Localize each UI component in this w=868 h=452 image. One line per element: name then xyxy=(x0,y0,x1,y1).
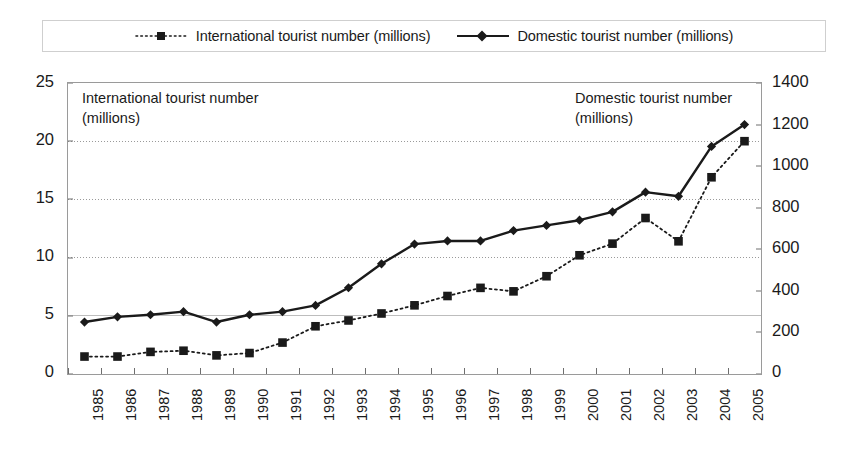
data-point-marker xyxy=(707,173,716,182)
data-point-marker xyxy=(179,346,188,355)
data-point-marker xyxy=(278,338,287,347)
y-axis-tick-left-5: 5 xyxy=(8,304,54,323)
y-axis-tick-right-400: 400 xyxy=(772,280,832,299)
x-axis-tick-1999: 1999 xyxy=(552,389,568,421)
data-point-marker xyxy=(476,284,485,293)
y-axis-tick-left-15: 15 xyxy=(8,188,54,207)
data-point-marker xyxy=(608,239,617,248)
data-point-marker xyxy=(344,316,353,325)
x-axis-tick-1989: 1989 xyxy=(222,389,238,421)
data-point-marker xyxy=(443,292,452,301)
data-point-marker xyxy=(575,216,584,225)
data-point-marker xyxy=(575,251,584,260)
y-axis-tick-right-600: 600 xyxy=(772,238,832,257)
x-axis-tick-1995: 1995 xyxy=(420,389,436,421)
chart-figure: International tourist number (millions) … xyxy=(0,0,868,452)
x-axis-tick-1996: 1996 xyxy=(453,389,469,421)
data-point-marker xyxy=(179,307,188,316)
data-point-marker xyxy=(113,352,122,361)
data-point-marker xyxy=(674,237,683,246)
data-point-marker xyxy=(113,312,122,321)
legend-item-domestic: Domestic tourist number (millions) xyxy=(456,28,733,44)
data-point-marker xyxy=(80,352,89,361)
square-marker-dotted-line-icon xyxy=(135,29,189,43)
x-axis-tick-2003: 2003 xyxy=(684,389,700,421)
y-axis-tick-right-200: 200 xyxy=(772,321,832,340)
x-axis-tick-1988: 1988 xyxy=(189,389,205,421)
x-axis-tick-2002: 2002 xyxy=(651,389,667,421)
data-point-marker xyxy=(212,317,221,326)
x-axis-tick-1985: 1985 xyxy=(90,389,106,421)
y-axis-tick-left-20: 20 xyxy=(8,130,54,149)
y-axis-tick-right-0: 0 xyxy=(772,362,832,381)
x-axis-tick-1986: 1986 xyxy=(123,389,139,421)
y-axis-tick-right-800: 800 xyxy=(772,197,832,216)
x-axis-tick-1994: 1994 xyxy=(387,389,403,421)
data-point-marker xyxy=(443,236,452,245)
data-point-marker xyxy=(410,301,419,310)
data-point-marker xyxy=(641,214,650,223)
data-point-marker xyxy=(542,221,551,230)
legend-item-international: International tourist number (millions) xyxy=(135,28,431,44)
legend-label-international: International tourist number (millions) xyxy=(196,28,431,44)
x-axis-tick-2001: 2001 xyxy=(618,389,634,421)
series-line-domestic xyxy=(85,125,745,322)
x-axis-tick-1987: 1987 xyxy=(156,389,172,421)
data-point-marker xyxy=(245,349,254,358)
x-axis-tick-2005: 2005 xyxy=(750,389,766,421)
x-axis-tick-1990: 1990 xyxy=(255,389,271,421)
data-point-marker xyxy=(245,310,254,319)
data-point-marker xyxy=(740,137,749,146)
x-axis-tick-2004: 2004 xyxy=(717,389,733,421)
data-point-marker xyxy=(311,301,320,310)
annotation-international-label: International tourist number (millions) xyxy=(82,89,259,128)
data-point-marker xyxy=(509,287,518,296)
y-axis-tick-right-1400: 1400 xyxy=(772,72,832,91)
y-axis-tick-right-1200: 1200 xyxy=(772,114,832,133)
data-point-marker xyxy=(509,226,518,235)
data-point-marker xyxy=(80,317,89,326)
series-line-international xyxy=(85,141,745,356)
y-axis-tick-left-0: 0 xyxy=(8,362,54,381)
data-point-marker xyxy=(146,348,155,357)
x-axis-tick-1991: 1991 xyxy=(288,389,304,421)
data-point-marker xyxy=(278,307,287,316)
x-axis-tick-2000: 2000 xyxy=(585,389,601,421)
data-point-marker xyxy=(542,272,551,281)
data-point-marker xyxy=(212,351,221,360)
diamond-marker-solid-line-icon xyxy=(456,29,510,43)
data-point-marker xyxy=(377,309,386,318)
data-point-marker xyxy=(476,236,485,245)
y-axis-tick-right-1000: 1000 xyxy=(772,155,832,174)
x-axis-tick-1998: 1998 xyxy=(519,389,535,421)
legend-label-domestic: Domestic tourist number (millions) xyxy=(517,28,733,44)
y-axis-tick-left-25: 25 xyxy=(8,72,54,91)
x-axis-tick-1997: 1997 xyxy=(486,389,502,421)
y-axis-tick-left-10: 10 xyxy=(8,246,54,265)
x-axis-tick-1992: 1992 xyxy=(321,389,337,421)
chart-legend: International tourist number (millions) … xyxy=(42,20,826,52)
plot-area: International tourist number (millions) … xyxy=(67,82,762,375)
data-point-marker xyxy=(146,310,155,319)
x-axis-tick-1993: 1993 xyxy=(354,389,370,421)
data-point-marker xyxy=(311,322,320,331)
annotation-domestic-label: Domestic tourist number (millions) xyxy=(575,89,732,128)
